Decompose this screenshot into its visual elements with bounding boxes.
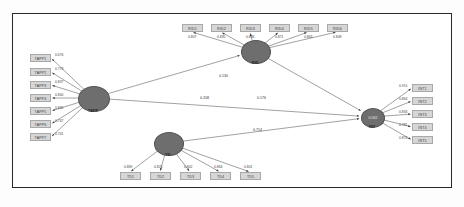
indicator-box: TD2 bbox=[150, 172, 171, 180]
indicator-box: RID5 bbox=[298, 24, 319, 32]
indicator-box: TAPP3 bbox=[30, 81, 51, 89]
construct-label-td: TD bbox=[154, 152, 182, 157]
factor-loading: 0.848 bbox=[333, 35, 342, 39]
factor-loading: 0.834 bbox=[399, 110, 408, 114]
indicator-box: RID6 bbox=[327, 24, 348, 32]
diagram-canvas: TAPP1TAPP2TAPP3TAPP4TAPP5TAPP6TAPP7RID1R… bbox=[0, 0, 464, 207]
indicator-box: TD3 bbox=[180, 172, 201, 180]
factor-loading: 0.835 bbox=[217, 35, 226, 39]
path-coefficient: 0.714 bbox=[253, 128, 262, 132]
factor-loading: 0.841 bbox=[244, 165, 253, 169]
path-layer bbox=[0, 0, 464, 207]
factor-loading: 0.773 bbox=[55, 67, 64, 71]
factor-loading: 0.864 bbox=[214, 165, 223, 169]
factor-loading: 0.840 bbox=[55, 93, 64, 97]
indicator-box: TAPP7 bbox=[30, 133, 51, 141]
indicator-box: RID3 bbox=[240, 24, 261, 32]
indicator-box: TAPP1 bbox=[30, 54, 51, 62]
indicator-box: TAPP4 bbox=[30, 94, 51, 102]
indicator-box: TAPP2 bbox=[30, 68, 51, 76]
factor-loading: 0.874 bbox=[399, 136, 408, 140]
indicator-box: INT3 bbox=[412, 110, 433, 118]
factor-loading: 0.869 bbox=[124, 165, 133, 169]
indicator-box: TD4 bbox=[210, 172, 231, 180]
indicator-box: TD5 bbox=[240, 172, 261, 180]
indicator-box: TAPP6 bbox=[30, 120, 51, 128]
factor-loading: 0.676 bbox=[55, 53, 64, 57]
factor-loading: 0.802 bbox=[184, 165, 193, 169]
factor-loading: 0.863 bbox=[304, 35, 313, 39]
factor-loading: 0.807 bbox=[188, 35, 197, 39]
path-coefficient: 0.130 bbox=[219, 74, 228, 78]
construct-label-int: INT bbox=[358, 124, 386, 129]
indicator-box: INT2 bbox=[412, 97, 433, 105]
indicator-box: RID1 bbox=[182, 24, 203, 32]
factor-loading: 0.837 bbox=[55, 80, 64, 84]
factor-loading: 0.741 bbox=[55, 132, 64, 136]
indicator-box: INT1 bbox=[412, 84, 433, 92]
path-coefficient: 0.208 bbox=[200, 96, 209, 100]
construct-label-tapp: TAPP bbox=[79, 108, 107, 113]
indicator-box: INT5 bbox=[412, 136, 433, 144]
path-coefficient: 0.176 bbox=[257, 96, 266, 100]
factor-loading: 0.825 bbox=[154, 165, 163, 169]
factor-loading: 0.864 bbox=[399, 97, 408, 101]
factor-loading: 0.871 bbox=[275, 35, 284, 39]
indicator-box: INT4 bbox=[412, 123, 433, 131]
factor-loading: 0.747 bbox=[55, 119, 64, 123]
indicator-box: TAPP5 bbox=[30, 107, 51, 115]
factor-loading: 0.835 bbox=[55, 106, 64, 110]
indicator-box: TD1 bbox=[120, 172, 141, 180]
factor-loading: 0.781 bbox=[399, 123, 408, 127]
factor-loading: 0.836 bbox=[246, 35, 255, 39]
indicator-box: RID2 bbox=[211, 24, 232, 32]
indicator-box: RID4 bbox=[269, 24, 290, 32]
construct-label-rid: RID bbox=[241, 60, 269, 65]
factor-loading: 0.915 bbox=[399, 84, 408, 88]
